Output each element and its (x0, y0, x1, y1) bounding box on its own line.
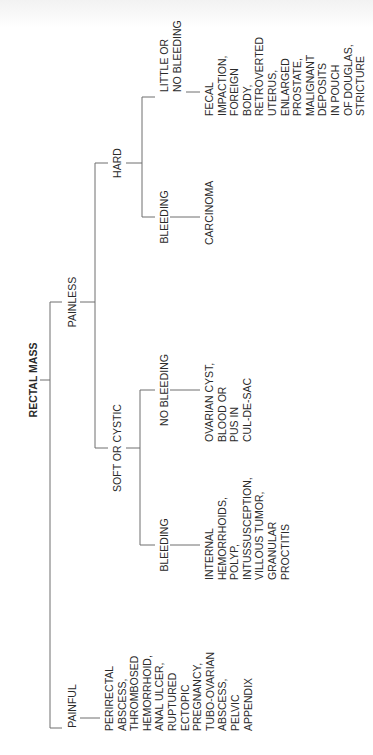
cause-item: BODY, (241, 37, 254, 116)
node-soft-no-bleeding: NO BLEEDING (158, 354, 170, 426)
cause-item: APPENDIX (242, 652, 255, 731)
causes-painful: PERIRECTAL ABSCESS, THROMBOSED HEMORRHOI… (103, 652, 254, 731)
cause-item: PERIRECTAL (103, 652, 116, 731)
cause-item: INTUSSUSCEPTION, (241, 477, 254, 580)
cause-item: RUPTURED (166, 652, 179, 731)
cause-item: OVARIAN CYST, (203, 363, 216, 442)
node-line: LITTLE OR (158, 20, 171, 92)
node-hard-bleeding: BLEEDING (158, 190, 170, 243)
cause-item: THROMBOSED (128, 652, 141, 731)
cause-item: CARCINOMA (203, 181, 216, 245)
cause-item: PELVIC (229, 652, 242, 731)
cause-item: PROSTATE, (291, 37, 304, 116)
cause-item: GRANULAR (266, 477, 279, 580)
cause-item: ENLARGED (279, 37, 292, 116)
cause-item: IN POUCH (329, 37, 342, 116)
cause-item: STRICTURE (354, 37, 367, 116)
cause-item: POLYP, (228, 477, 241, 580)
causes-soft-bleeding: INTERNAL HEMORRHOIDS, POLYP, INTUSSUSCEP… (203, 477, 291, 580)
node-soft-or-cystic: SOFT OR CYSTIC (111, 404, 123, 492)
cause-item: DEPOSITS (316, 37, 329, 116)
cause-item: HEMORRHOIDS, (216, 477, 229, 580)
causes-hard-bleeding: CARCINOMA (203, 181, 216, 245)
causes-little-or-no-bleeding: FECAL IMPACTION, FOREIGN BODY, RETROVERT… (203, 37, 367, 116)
causes-soft-no-bleeding: OVARIAN CYST, BLOOD OR PUS IN CUL-DE-SAC (203, 363, 253, 442)
node-rectal-mass: RECTAL MASS (27, 343, 39, 418)
node-soft-bleeding: BLEEDING (158, 518, 170, 571)
cause-item: OF DOUGLAS, (342, 37, 355, 116)
node-line: NO BLEEDING (171, 20, 184, 92)
node-painful: PAINFUL (66, 684, 78, 728)
cause-item: FOREIGN (228, 37, 241, 116)
cause-item: FECAL (203, 37, 216, 116)
node-painless: PAINLESS (66, 277, 78, 328)
cause-item: MALIGNANT (304, 37, 317, 116)
cause-item: ECTOPIC (179, 652, 192, 731)
cause-item: INTERNAL (203, 477, 216, 580)
node-little-or-no-bleeding: LITTLE OR NO BLEEDING (158, 20, 183, 92)
cause-item: ANAL ULCER, (153, 652, 166, 731)
cause-item: UTERUS, (266, 37, 279, 116)
node-hard: HARD (111, 148, 123, 178)
cause-item: IMPACTION, (216, 37, 229, 116)
cause-item: ABSCESS, (116, 652, 129, 731)
cause-item: TUBO-OVARIAN (204, 652, 217, 731)
cause-item: ABSCESS, (216, 652, 229, 731)
cause-item: VILLOUS TUMOR, (253, 477, 266, 580)
cause-item: BLOOD OR (216, 363, 229, 442)
cause-item: CUL-DE-SAC (241, 363, 254, 442)
cause-item: PROCTITIS (279, 477, 292, 580)
cause-item: PREGNANCY, (191, 652, 204, 731)
cause-item: PUS IN (228, 363, 241, 442)
cause-item: HEMORRHOID, (141, 652, 154, 731)
cause-item: RETROVERTED (253, 37, 266, 116)
